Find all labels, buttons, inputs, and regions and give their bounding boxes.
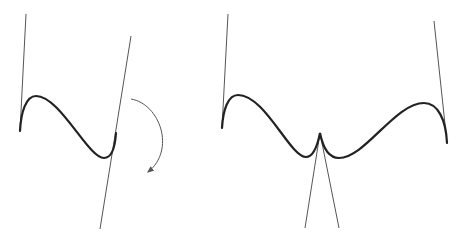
right-curve-with-cusp (222, 95, 447, 158)
rotation-arrow-icon (131, 99, 163, 172)
left-curve (20, 96, 116, 158)
cusp-tangent-line-2 (320, 133, 339, 228)
right-figure (222, 14, 447, 228)
cusp-tangent-line-1 (305, 133, 320, 228)
diagram-canvas (0, 0, 469, 244)
left-figure (20, 14, 163, 229)
